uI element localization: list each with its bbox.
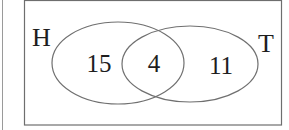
h-only-count: 15	[87, 50, 112, 77]
intersection-count: 4	[148, 50, 161, 77]
set-t-ellipse	[122, 26, 258, 102]
venn-diagram: H T 15 4 11	[0, 0, 289, 130]
t-only-count: 11	[209, 52, 233, 79]
set-h-ellipse	[52, 22, 184, 104]
set-h-label: H	[32, 23, 51, 52]
set-t-label: T	[258, 29, 274, 58]
